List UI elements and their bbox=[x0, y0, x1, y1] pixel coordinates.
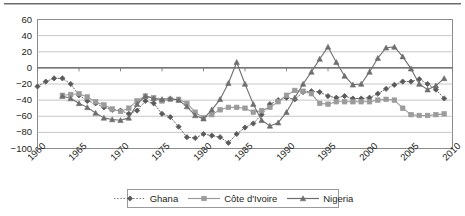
y-axis-tick-label: −20 bbox=[2, 78, 32, 89]
data-point-marker bbox=[102, 103, 107, 108]
data-point-marker bbox=[226, 105, 231, 110]
data-point-marker bbox=[409, 112, 414, 117]
data-point-marker bbox=[301, 89, 306, 94]
legend-swatch-square bbox=[187, 193, 221, 204]
legend-entry-c-te-d-ivoire: Côte d'Ivoire bbox=[187, 193, 277, 204]
data-point-marker bbox=[400, 106, 405, 111]
data-point-marker bbox=[202, 196, 207, 201]
legend-label: Ghana bbox=[150, 193, 179, 204]
legend-label: Côte d'Ivoire bbox=[224, 193, 277, 204]
data-point-marker bbox=[417, 113, 422, 118]
chart-figure: 6040200−20−40−60−80−100 1960196519701975… bbox=[0, 0, 465, 216]
data-point-marker bbox=[118, 109, 123, 114]
data-point-marker bbox=[234, 105, 239, 110]
legend-swatch-triangle bbox=[286, 193, 320, 204]
data-point-marker bbox=[392, 98, 397, 103]
data-point-marker bbox=[218, 108, 223, 113]
data-point-marker bbox=[259, 108, 264, 113]
data-point-marker bbox=[334, 99, 339, 104]
data-point-marker bbox=[85, 95, 90, 100]
data-point-marker bbox=[284, 93, 289, 98]
data-point-marker bbox=[442, 112, 447, 117]
data-point-marker bbox=[127, 106, 132, 111]
data-point-marker bbox=[326, 102, 331, 107]
data-point-marker bbox=[127, 196, 132, 201]
data-point-marker bbox=[276, 99, 281, 104]
data-point-marker bbox=[367, 99, 372, 104]
data-point-marker bbox=[293, 88, 298, 93]
data-point-marker bbox=[359, 99, 364, 104]
data-point-marker bbox=[110, 107, 115, 112]
data-point-marker bbox=[210, 112, 215, 117]
data-point-marker bbox=[342, 99, 347, 104]
legend-entry-ghana: Ghana bbox=[113, 193, 179, 204]
data-point-marker bbox=[376, 98, 381, 103]
y-axis-tick-label: 60 bbox=[2, 14, 32, 25]
data-point-marker bbox=[77, 91, 82, 96]
data-point-marker bbox=[384, 97, 389, 102]
data-point-marker bbox=[317, 101, 322, 106]
legend-entry-nigeria: Nigeria bbox=[286, 193, 353, 204]
y-axis-tick-label: −80 bbox=[2, 126, 32, 137]
data-point-marker bbox=[434, 112, 439, 117]
y-axis-tick-label: 20 bbox=[2, 46, 32, 57]
data-point-marker bbox=[243, 106, 248, 111]
plot-canvas bbox=[0, 0, 465, 216]
data-point-marker bbox=[268, 105, 273, 110]
y-axis-tick-label: −40 bbox=[2, 94, 32, 105]
data-point-marker bbox=[93, 99, 98, 104]
chart-legend: GhanaCôte d'IvoireNigeria bbox=[127, 189, 339, 208]
data-point-marker bbox=[351, 99, 356, 104]
data-point-marker bbox=[425, 113, 430, 118]
legend-label: Nigeria bbox=[323, 193, 353, 204]
data-point-marker bbox=[251, 110, 256, 115]
y-axis-tick-label: 0 bbox=[2, 62, 32, 73]
y-axis-tick-label: −60 bbox=[2, 110, 32, 121]
legend-swatch-diamond bbox=[113, 193, 147, 204]
data-point-marker bbox=[309, 91, 314, 96]
y-axis-tick-label: 40 bbox=[2, 30, 32, 41]
